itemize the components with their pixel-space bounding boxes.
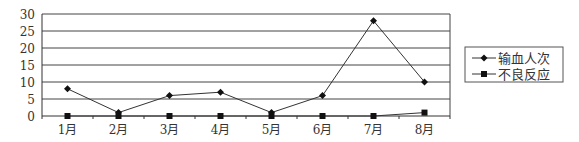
- data-series: [64, 17, 428, 119]
- y-tick-label: 15: [20, 59, 35, 73]
- data-point: [320, 113, 326, 119]
- data-point: [217, 89, 224, 96]
- data-point: [269, 113, 275, 119]
- data-point: [422, 110, 428, 116]
- y-tick-label: 0: [27, 110, 35, 124]
- y-tick-label: 20: [20, 42, 35, 56]
- x-tick-label: 8月: [415, 123, 435, 137]
- legend-label: 不良反应: [498, 67, 550, 82]
- legend-label: 输血人次: [498, 51, 550, 66]
- x-tick-label: 1月: [58, 123, 78, 137]
- x-tick-label: 3月: [160, 123, 180, 137]
- y-tick-label: 25: [20, 25, 35, 39]
- data-point: [116, 113, 122, 119]
- y-tick-label: 30: [20, 8, 35, 22]
- data-point: [65, 113, 71, 119]
- square-marker-icon: [481, 71, 487, 77]
- gridlines: [42, 14, 450, 116]
- data-point: [371, 113, 377, 119]
- chart-canvas: 051015202530 1月2月3月4月5月6月7月8月 输血人次 不良反应: [0, 0, 579, 142]
- line-chart: 051015202530 1月2月3月4月5月6月7月8月 输血人次 不良反应: [0, 0, 579, 142]
- x-tick-label: 5月: [262, 123, 282, 137]
- data-point: [167, 113, 173, 119]
- x-axis: 1月2月3月4月5月6月7月8月: [42, 116, 450, 137]
- y-axis: 051015202530: [20, 8, 42, 124]
- x-tick-label: 6月: [313, 123, 333, 137]
- y-tick-label: 5: [27, 93, 35, 107]
- y-tick-label: 10: [20, 76, 35, 90]
- data-point: [166, 92, 173, 99]
- data-point: [64, 85, 71, 92]
- legend: 输血人次 不良反应: [465, 47, 563, 82]
- series-transfusions: [64, 17, 428, 116]
- data-point: [218, 113, 224, 119]
- x-tick-label: 2月: [109, 123, 129, 137]
- x-tick-label: 7月: [364, 123, 384, 137]
- x-tick-label: 4月: [211, 123, 231, 137]
- data-point: [319, 92, 326, 99]
